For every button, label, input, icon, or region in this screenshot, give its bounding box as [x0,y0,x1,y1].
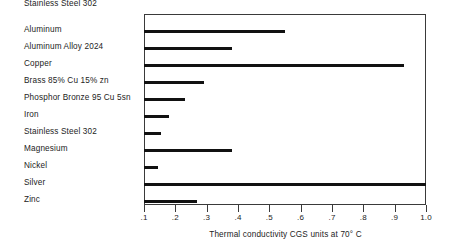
category-label-stainless-steel-302-b: Stainless Steel 302 [24,128,97,136]
x-axis-caption: Thermal conductivity CGS units at 70° C [144,230,427,239]
category-label-aluminum-alloy-2024: Aluminum Alloy 2024 [24,43,103,51]
x-axis-tick-label: .3 [203,213,210,222]
category-label-magnesium: Magnesium [24,145,68,153]
bar-phosphor-bronze [144,98,185,101]
x-axis-tick-mark [238,205,239,212]
category-label-brass: Brass 85% Cu 15% zn [24,77,109,85]
x-axis-tick-label: 1.0 [420,213,432,222]
x-axis-tick-mark [395,205,396,212]
bar-aluminum [144,30,285,33]
category-label-silver: Silver [24,179,45,187]
x-axis-tick-mark [175,205,176,212]
x-axis-tick-label: .8 [360,213,367,222]
category-label-phosphor-bronze: Phosphor Bronze 95 Cu 5sn [24,94,131,102]
x-axis-tick-labels: .1.2.3.4.5.6.7.8.91.0 [0,213,457,227]
x-axis-tick-mark [301,205,302,212]
thermal-conductivity-bar-chart: Aluminum Aluminum Alloy 2024 Copper Bras… [0,0,457,249]
bar-aluminum-alloy-2024 [144,47,232,50]
bar-copper [144,64,404,67]
bar-iron [144,115,169,118]
category-label-zinc: Zinc [24,196,40,204]
x-axis-tick-mark [269,205,270,212]
category-label-nickel: Nickel [24,162,47,170]
x-axis-tick-label: .6 [297,213,304,222]
x-axis-tick-mark [207,205,208,212]
x-axis-tick-mark [363,205,364,212]
x-axis-tick-label: .5 [266,213,273,222]
bar-stainless-steel-302 [144,132,161,135]
x-axis-tick-label: .2 [172,213,179,222]
category-label-column: Aluminum Aluminum Alloy 2024 Copper Bras… [0,0,140,249]
x-axis-tick-mark [144,205,145,212]
x-axis-tick-marks [144,205,427,213]
category-label-copper: Copper [24,60,52,68]
category-label-stainless-steel-302: Stainless Steel 302 [24,0,97,8]
category-label-aluminum: Aluminum [24,26,62,34]
x-axis-tick-mark [332,205,333,212]
x-axis-tick-label: .4 [234,213,241,222]
bar-zinc [144,200,197,203]
category-label-iron: Iron [24,111,39,119]
bar-brass [144,81,204,84]
x-axis-tick-mark [426,205,427,212]
x-axis-tick-label: .1 [140,213,147,222]
bar-nickel [144,166,158,169]
bar-magnesium [144,149,232,152]
bar-silver [144,183,426,186]
x-axis-tick-label: .7 [328,213,335,222]
bars-layer [144,14,426,205]
x-axis-tick-label: .9 [391,213,398,222]
